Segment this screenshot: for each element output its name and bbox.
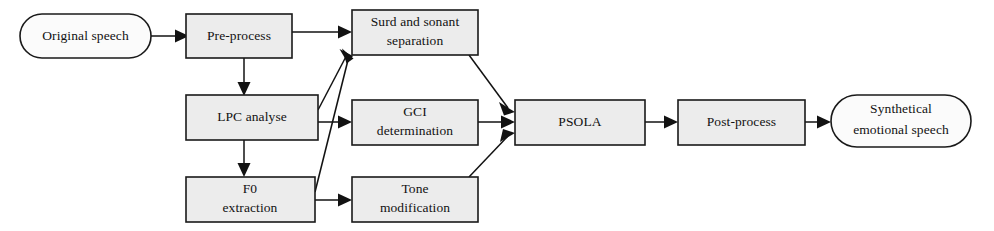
- pre-process-label: Pre-process: [207, 28, 271, 43]
- edge-post-process-to-synthetical-speech: [805, 116, 831, 129]
- node-post-process[interactable]: Post-process: [678, 100, 805, 145]
- original-speech-label: Original speech: [42, 28, 129, 43]
- node-original-speech[interactable]: Original speech: [20, 14, 151, 58]
- surd-sonant-separation-label-line1: Surd and sonant: [371, 14, 460, 29]
- f0-extraction-label-line2: extraction: [223, 200, 278, 215]
- edge-lpc-analyse-to-gci-determination: [318, 116, 352, 129]
- node-surd-sonant-separation[interactable]: Surd and sonant separation: [352, 10, 478, 55]
- node-gci-determination[interactable]: GCI determination: [352, 100, 478, 145]
- lpc-analyse-label: LPC analyse: [217, 109, 287, 124]
- node-tone-modification[interactable]: Tone modification: [352, 177, 478, 222]
- node-lpc-analyse[interactable]: LPC analyse: [186, 95, 318, 140]
- nodes-layer: Original speech Pre-process Surd and son…: [20, 10, 971, 222]
- tone-modification-label-line1: Tone: [401, 181, 428, 196]
- synthetical-emotional-speech-label-line1: Synthetical: [870, 101, 932, 116]
- psola-label: PSOLA: [558, 114, 601, 129]
- node-synthetical-emotional-speech[interactable]: Synthetical emotional speech: [831, 95, 971, 147]
- node-f0-extraction[interactable]: F0 extraction: [186, 177, 315, 222]
- flowchart-container: Original speech Pre-process Surd and son…: [0, 0, 994, 231]
- gci-determination-label-line2: determination: [377, 123, 453, 138]
- synthetical-emotional-speech-label-line2: emotional speech: [853, 122, 949, 137]
- edge-original-speech-to-pre-process: [151, 30, 189, 43]
- surd-sonant-separation-label-line2: separation: [387, 33, 444, 48]
- node-psola[interactable]: PSOLA: [515, 100, 645, 145]
- gci-determination-label-line1: GCI: [403, 104, 427, 119]
- edge-pre-process-to-surd-sonant: [292, 26, 352, 39]
- node-pre-process[interactable]: Pre-process: [186, 14, 292, 58]
- post-process-label: Post-process: [707, 114, 776, 129]
- flowchart-canvas: Original speech Pre-process Surd and son…: [0, 0, 994, 231]
- edge-f0-extraction-to-tone-modification: [315, 194, 352, 207]
- edge-psola-to-post-process: [645, 116, 678, 129]
- edge-pre-process-to-lpc-analyse: [238, 58, 251, 96]
- f0-extraction-label-line1: F0: [243, 181, 258, 196]
- edge-gci-determination-to-psola: [478, 116, 515, 129]
- tone-modification-label-line2: modification: [380, 200, 450, 215]
- edge-lpc-analyse-to-f0-extraction: [238, 140, 251, 177]
